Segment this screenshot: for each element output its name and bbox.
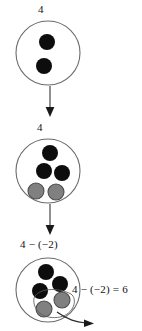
stage-3-label: 4 − (−2) (20, 238, 58, 250)
arrow-stage2-to-stage3 (42, 204, 58, 236)
positive-counter (42, 145, 58, 161)
negative-counter (48, 184, 64, 200)
positive-counter (36, 163, 52, 179)
stage-2-counter-circle (14, 136, 84, 206)
positive-counter (38, 264, 54, 280)
stage-2-label: 4 (37, 121, 43, 133)
stage-1-counter-circle (14, 18, 82, 88)
negative-counter (36, 301, 52, 317)
positive-counter (36, 58, 52, 74)
negative-counter (54, 292, 70, 308)
negative-counter (28, 183, 44, 199)
positive-counter (39, 34, 55, 50)
stage-1-label: 4 (38, 3, 44, 15)
positive-counter (54, 165, 70, 181)
result-equation: 4 − (−2) = 6 (72, 283, 128, 295)
arrow-stage1-to-stage2 (42, 86, 58, 118)
